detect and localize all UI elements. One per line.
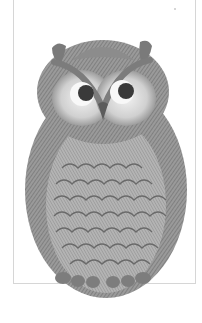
owl-head: [37, 40, 169, 144]
owl-illustration: [0, 0, 202, 323]
